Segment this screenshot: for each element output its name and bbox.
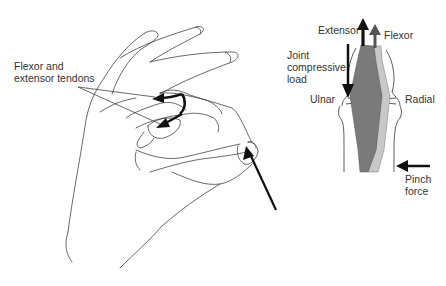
pinch-grip-figure: Flexor and extensor tendons Extensor Fle… [0, 0, 446, 286]
flexor-arrowhead-icon [369, 24, 381, 35]
ulnar-label: Ulnar [310, 93, 335, 105]
extensor-label: Extensor [318, 24, 359, 36]
joint-compressive-load-label: Joint compressive load [287, 49, 346, 85]
radial-label: Radial [405, 93, 435, 105]
pinch-force-label: Pinch force [405, 173, 431, 197]
flexor-label: Flexor [384, 29, 413, 41]
pinch-force-arrowhead-icon [396, 160, 408, 172]
joint-diagram [0, 0, 446, 286]
